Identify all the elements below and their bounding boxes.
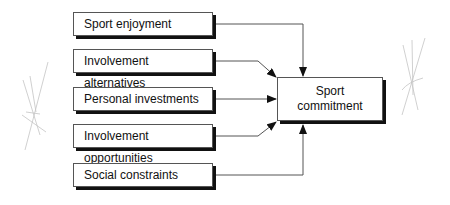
box-label: Social constraints bbox=[84, 168, 178, 182]
arrow-involvement-alternatives bbox=[216, 61, 276, 77]
sketch-mark-left bbox=[22, 62, 48, 150]
box-label: Personal investments bbox=[84, 92, 199, 106]
box-social-constraints: Social constraints bbox=[73, 163, 213, 187]
arrow-sport-enjoyment bbox=[216, 24, 303, 76]
box-involvement-alternatives: Involvement alternatives bbox=[73, 49, 213, 73]
arrow-social-constraints bbox=[216, 125, 303, 175]
box-label: Sport enjoyment bbox=[84, 17, 171, 31]
box-sport-enjoyment: Sport enjoyment bbox=[73, 12, 213, 36]
target-label-line1: Sport bbox=[278, 84, 382, 99]
target-label-line2: commitment bbox=[278, 99, 382, 114]
box-label: Involvement opportunities bbox=[84, 129, 153, 165]
box-sport-commitment: Sport commitment bbox=[277, 77, 383, 121]
arrow-involvement-opportunities bbox=[216, 122, 276, 136]
sketch-mark-right bbox=[402, 38, 425, 115]
box-involvement-opportunities: Involvement opportunities bbox=[73, 124, 213, 148]
box-personal-investments: Personal investments bbox=[73, 87, 213, 111]
box-label: Involvement alternatives bbox=[84, 54, 149, 90]
